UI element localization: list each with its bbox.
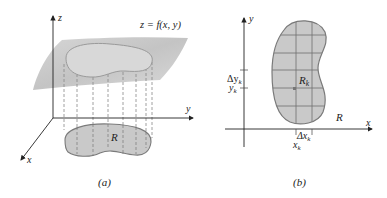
x-axis-label-a: x	[26, 154, 32, 165]
figure: z y x z = f(x, y) R (a)	[0, 0, 387, 198]
region-r-label-b: R	[335, 111, 343, 123]
delta-x-label: Δxk	[296, 130, 311, 143]
z-axis-label: z	[57, 12, 62, 23]
surface-equation-label: z = f(x, y)	[139, 19, 181, 31]
sample-point	[293, 87, 296, 90]
caption-a: (a)	[98, 176, 111, 189]
x-axis-label-b: x	[365, 117, 371, 128]
panel-a: z y x z = f(x, y) R (a)	[21, 12, 193, 189]
panel-b: y x Δyk yk Rk Δxk xk R (b)	[225, 13, 372, 189]
y-axis-label-b: y	[248, 13, 254, 24]
y-axis-label-a: y	[185, 103, 191, 114]
region-r-label-a: R	[110, 131, 118, 143]
x-axis-a	[21, 118, 53, 160]
caption-b: (b)	[293, 176, 306, 189]
